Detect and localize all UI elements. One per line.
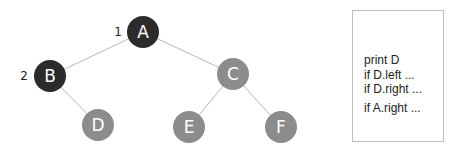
tree-node-b: B 2 <box>20 60 66 92</box>
node-label-a: A <box>137 22 149 42</box>
visit-order-b: 2 <box>20 69 28 83</box>
tree-node-e: E <box>173 111 205 143</box>
tree-node-f: F <box>265 111 297 143</box>
call-stack-lines: print D if D.left ... if D.right ... if … <box>364 53 422 115</box>
binary-tree-diagram: A 1 B 2 C D E F <box>0 0 340 149</box>
call-stack-line: if A.right ... <box>364 101 422 116</box>
node-label-c: C <box>227 64 239 84</box>
call-stack-panel: print D if D.left ... if D.right ... if … <box>352 10 444 142</box>
node-label-b: B <box>44 66 56 86</box>
node-label-e: E <box>184 117 195 137</box>
call-stack-line: if D.left ... <box>364 68 422 83</box>
tree-node-a: A 1 <box>114 16 159 48</box>
node-label-d: D <box>91 115 104 135</box>
call-stack-line: if D.right ... <box>364 82 422 97</box>
visit-order-a: 1 <box>114 25 122 39</box>
call-stack-line: print D <box>364 53 422 68</box>
node-label-f: F <box>276 117 286 137</box>
tree-node-d: D <box>82 109 114 141</box>
tree-node-c: C <box>217 58 249 90</box>
